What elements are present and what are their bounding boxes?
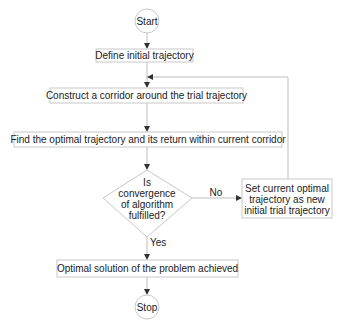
set-current-line-3: initial trial trajectory bbox=[244, 205, 330, 216]
set-current-trajectory-node: Set current optimal trajectory as new in… bbox=[242, 179, 332, 218]
start-node: Start bbox=[135, 9, 159, 33]
find-optimal-label: Find the optimal trajectory and its retu… bbox=[10, 134, 286, 145]
decision-line-1: Is bbox=[143, 177, 151, 188]
convergence-decision-node: Is convergence of algorithm fulfilled? bbox=[103, 170, 192, 237]
stop-node: Stop bbox=[135, 295, 159, 319]
optimal-solution-label: Optimal solution of the problem achieved bbox=[57, 263, 238, 274]
decision-line-3: of algorithm bbox=[121, 199, 173, 210]
define-trajectory-label: Define initial trajectory bbox=[95, 50, 193, 61]
construct-corridor-node: Construct a corridor around the trial tr… bbox=[46, 88, 247, 103]
optimal-solution-node: Optimal solution of the problem achieved bbox=[57, 260, 238, 277]
stop-label: Stop bbox=[137, 302, 158, 313]
find-optimal-node: Find the optimal trajectory and its retu… bbox=[10, 132, 286, 147]
construct-corridor-label: Construct a corridor around the trial tr… bbox=[46, 90, 247, 101]
decision-line-4: fulfilled? bbox=[129, 210, 166, 221]
connectors bbox=[147, 33, 288, 294]
set-current-line-1: Set current optimal bbox=[245, 183, 329, 194]
edge-label-no: No bbox=[210, 187, 223, 198]
decision-line-2: convergence bbox=[118, 188, 176, 199]
define-trajectory-node: Define initial trajectory bbox=[95, 49, 193, 62]
flowchart: Start Define initial trajectory Construc… bbox=[0, 0, 347, 330]
start-label: Start bbox=[136, 16, 157, 27]
edge-label-yes: Yes bbox=[150, 237, 166, 248]
set-current-line-2: trajectory as new bbox=[249, 194, 325, 205]
